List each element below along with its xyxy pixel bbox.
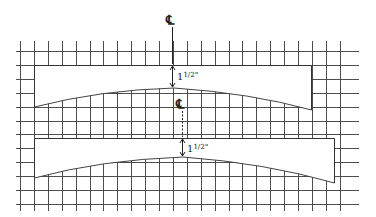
arched-panels-diagram: ℄ 11/2" ℄ 11/2" xyxy=(0,0,376,217)
centerline-symbol-icon: ℄ xyxy=(165,12,175,27)
centerline-symbol-icon: ℄ xyxy=(175,96,185,111)
